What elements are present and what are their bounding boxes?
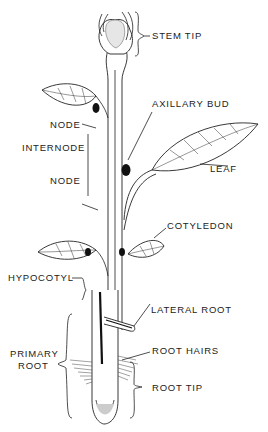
label-root-tip: ROOT TIP	[152, 382, 203, 393]
upper-left-leaf	[42, 84, 108, 118]
large-leaf	[122, 123, 259, 230]
label-lateral-root: LATERAL ROOT	[151, 304, 232, 315]
upper-axillary-bud	[93, 103, 100, 113]
label-axillary-bud: AXILLARY BUD	[152, 98, 229, 109]
primary-root	[92, 290, 118, 424]
main-stem	[106, 50, 127, 330]
label-internode: INTERNODE	[22, 142, 85, 153]
left-cotyledon	[38, 241, 108, 276]
label-primary-root-line2: ROOT	[18, 360, 49, 371]
label-node-lower: NODE	[50, 175, 81, 186]
label-primary-root-line1: PRIMARY	[10, 348, 59, 359]
left-cotyledon-bud	[85, 248, 91, 256]
plant-diagram: STEM TIP AXILLARY BUD NODE INTERNODE NOD…	[0, 0, 268, 432]
label-hypocotyl: HYPOCOTYL	[8, 272, 74, 283]
label-stem-tip: STEM TIP	[152, 30, 202, 41]
axillary-bud	[122, 164, 131, 176]
label-leaders	[58, 12, 228, 418]
label-node-upper: NODE	[50, 119, 81, 130]
right-cotyledon	[119, 240, 164, 257]
label-root-hairs: ROOT HAIRS	[152, 345, 219, 356]
label-cotyledon: COTYLEDON	[167, 220, 233, 231]
right-cotyledon-bud	[119, 248, 125, 256]
label-leaf: LEAF	[210, 163, 237, 174]
stem-tip-apex	[99, 12, 133, 54]
